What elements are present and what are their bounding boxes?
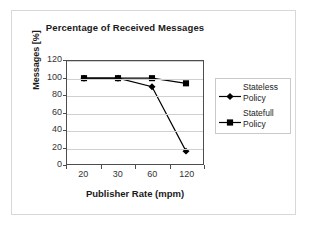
square-marker: [183, 80, 189, 86]
gridline: [67, 61, 203, 62]
y-tick-mark: [63, 113, 67, 114]
x-axis-title: Publisher Rate (mpm): [46, 188, 224, 199]
y-tick-mark: [63, 78, 67, 79]
y-tick-mark: [63, 60, 67, 61]
y-tick-mark: [63, 95, 67, 96]
y-tick-label: 0: [36, 160, 62, 169]
legend-entry[interactable]: StatelessPolicy: [219, 83, 291, 107]
gridline: [67, 79, 203, 80]
gridline: [67, 96, 203, 97]
x-tick-mark: [204, 165, 205, 169]
y-tick-label: 60: [36, 108, 62, 117]
diamond-marker: [226, 93, 233, 100]
x-tick-mark: [101, 165, 102, 169]
x-tick-mark: [170, 165, 171, 169]
x-tick-label: 120: [167, 169, 207, 179]
legend-label: StatefullPolicy: [243, 108, 293, 130]
chart-legend: StatelessPolicyStatefullPolicy: [215, 78, 291, 134]
x-tick-mark: [135, 165, 136, 169]
series-line: [84, 78, 186, 151]
y-tick-label: 40: [36, 125, 62, 134]
y-tick-label: 100: [36, 73, 62, 82]
legend-marker-sample: [219, 113, 241, 122]
legend-label-line2: Policy: [243, 119, 293, 130]
diamond-marker: [148, 83, 155, 90]
y-tick-label: 20: [36, 143, 62, 152]
gridline: [67, 131, 203, 132]
legend-marker-sample: [219, 87, 241, 96]
legend-label-line1: Stateless: [243, 82, 293, 93]
square-marker: [227, 119, 233, 125]
gridline: [67, 114, 203, 115]
y-tick-label: 120: [36, 55, 62, 64]
y-tick-label: 80: [36, 90, 62, 99]
x-tick-mark: [66, 165, 67, 169]
y-tick-mark: [63, 148, 67, 149]
chart-image: Percentage of Received Messages Messages…: [0, 0, 311, 230]
gridline: [67, 149, 203, 150]
legend-label: StatelessPolicy: [243, 82, 293, 104]
legend-label-line1: Statefull: [243, 108, 293, 119]
legend-entry[interactable]: StatefullPolicy: [219, 109, 291, 133]
legend-label-line2: Policy: [243, 93, 293, 104]
plot-area: [66, 60, 204, 165]
y-tick-mark: [63, 130, 67, 131]
